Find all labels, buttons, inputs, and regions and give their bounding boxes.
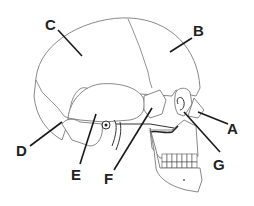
label-G: G [213, 156, 225, 173]
ear-canal-hole [105, 124, 108, 127]
label-E: E [71, 166, 81, 183]
cranium-outline [34, 18, 200, 140]
zygomatic-arch [116, 124, 174, 128]
label-F: F [104, 170, 113, 187]
label-A: A [227, 120, 238, 137]
label-D: D [16, 142, 27, 159]
skull-diagram: C B D E F A G [0, 0, 254, 206]
leader-line-A [198, 112, 228, 124]
occipital-lower [62, 119, 102, 146]
label-C: C [45, 16, 56, 33]
label-B: B [193, 22, 204, 39]
upper-teeth [162, 154, 197, 168]
mental-foramen [183, 179, 185, 181]
